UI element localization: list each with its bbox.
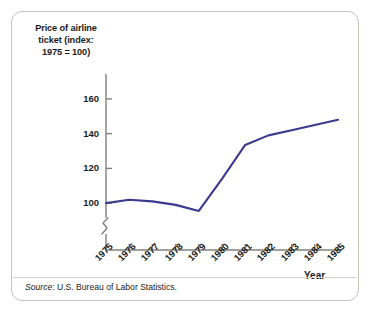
y-tick-label: 120 (69, 162, 99, 173)
x-axis-name: Year (304, 270, 325, 281)
source-body: : U.S. Bureau of Labor Statistics. (52, 282, 177, 292)
figure-panel: Price of airline ticket (index: 1975 = 1… (11, 11, 359, 301)
source-note: Source: U.S. Bureau of Labor Statistics. (25, 282, 177, 292)
source-label: Source (25, 282, 52, 292)
y-tick-label: 140 (69, 128, 99, 139)
chart-axes (102, 74, 342, 250)
y-tick-label: 100 (69, 197, 99, 208)
chart-line-series (106, 120, 338, 211)
y-tick-label: 160 (69, 93, 99, 104)
source-divider (13, 277, 357, 278)
